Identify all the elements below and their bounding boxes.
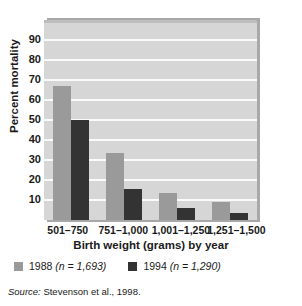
legend-item-1988: 1988 (n = 1,693) xyxy=(14,260,106,272)
y-tick-label-70: 70 xyxy=(1,74,41,85)
y-tick-label-10: 10 xyxy=(1,194,41,205)
y-axis-ticks: 908070605040302010 xyxy=(0,20,41,220)
legend-swatch-icon-1994 xyxy=(128,262,137,271)
bar-1988-1,001–1,250 xyxy=(159,193,177,220)
x-axis-ticks: 501–750751–1,0001,001–1,2501,251–1,500 xyxy=(40,224,262,238)
legend-item-1994: 1994 (n = 1,290) xyxy=(128,260,220,272)
y-tick-label-30: 30 xyxy=(1,154,41,165)
y-tick-label-40: 40 xyxy=(1,134,41,145)
bar-1994-751–1,000 xyxy=(124,189,142,220)
bar-series-container xyxy=(44,20,257,220)
y-tick-label-50: 50 xyxy=(1,114,41,125)
source-text: Stevenson et al., 1998. xyxy=(43,286,140,297)
legend-label-1988: 1988 (n = 1,693) xyxy=(29,260,106,272)
legend-swatch-icon-1988 xyxy=(14,262,23,271)
legend: 1988 (n = 1,693) 1994 (n = 1,290) xyxy=(14,258,289,274)
bar-1988-751–1,000 xyxy=(106,153,124,220)
legend-label-1994: 1994 (n = 1,290) xyxy=(143,260,220,272)
bar-1988-501–750 xyxy=(53,86,71,220)
x-tick-label-1: 751–1,000 xyxy=(96,224,150,236)
y-tick-label-60: 60 xyxy=(1,94,41,105)
source-note: Source: Stevenson et al., 1998. xyxy=(8,286,141,297)
bar-1994-1,251–1,500 xyxy=(230,213,248,220)
bar-1994-1,001–1,250 xyxy=(177,208,195,220)
source-label: Source: xyxy=(8,286,41,297)
figure: Percent mortality 908070605040302010 501… xyxy=(0,0,302,306)
y-tick-label-80: 80 xyxy=(1,54,41,65)
x-tick-label-0: 501–750 xyxy=(41,224,95,236)
x-tick-label-3: 1,251–1,500 xyxy=(207,224,261,236)
x-axis-title: Birth weight (grams) by year xyxy=(40,239,262,251)
y-tick-label-20: 20 xyxy=(1,174,41,185)
x-tick-label-2: 1,001–1,250 xyxy=(152,224,206,236)
bar-1988-1,251–1,500 xyxy=(212,202,230,220)
y-tick-label-90: 90 xyxy=(1,34,41,45)
bar-1994-501–750 xyxy=(71,120,89,220)
